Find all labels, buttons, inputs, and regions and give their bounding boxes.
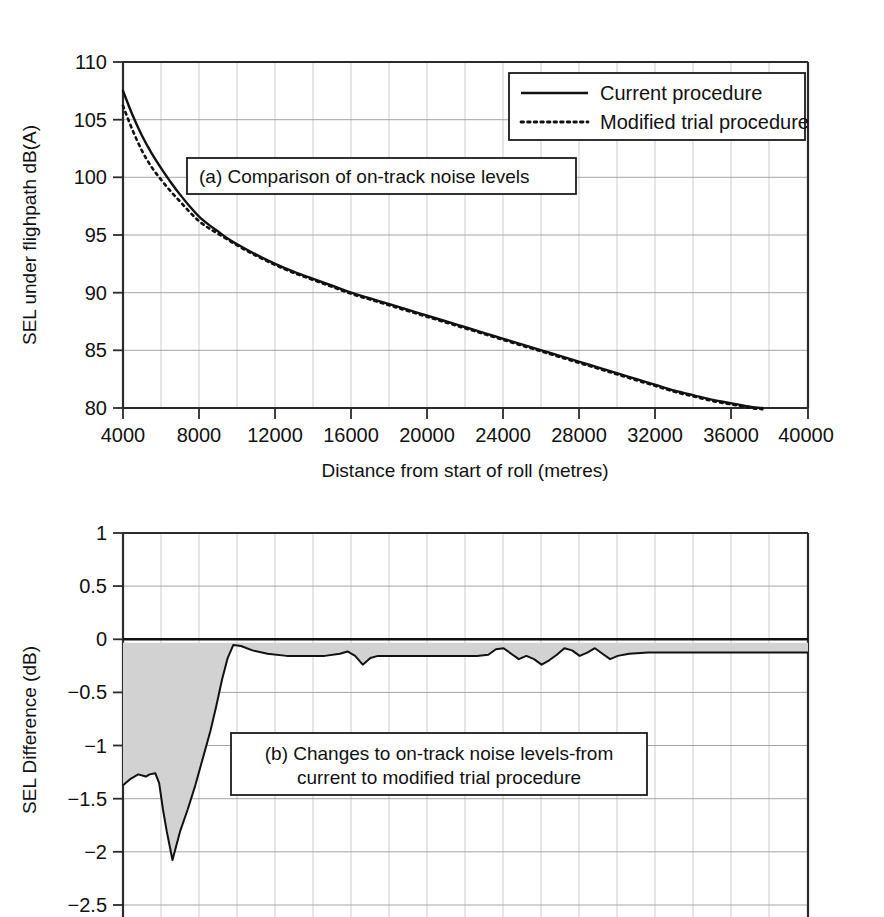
chart-svg: 110 105 100 95 90 85 80 4000 800 bbox=[0, 0, 884, 917]
panel-b-minor-gridlines bbox=[161, 533, 769, 917]
panel-a-xtick-8000: 8000 bbox=[177, 424, 222, 446]
panel-b-ytick-neg0p5: −0.5 bbox=[68, 681, 107, 703]
panel-a-horizontal-gridlines bbox=[123, 120, 808, 351]
panel-b-y-ticks bbox=[113, 533, 123, 905]
panel-a-legend: Current procedure Modified trial procedu… bbox=[509, 73, 809, 140]
panel-b-ytick-0: 0 bbox=[96, 628, 107, 650]
panel-b-ytick-1: 1 bbox=[96, 522, 107, 544]
panel-a-ytick-95: 95 bbox=[85, 224, 107, 246]
legend-label-current: Current procedure bbox=[600, 82, 762, 104]
panel-a-xtick-36000: 36000 bbox=[703, 424, 759, 446]
panel-a-ytick-85: 85 bbox=[85, 339, 107, 361]
panel-a-x-axis-title: Distance from start of roll (metres) bbox=[321, 460, 608, 481]
panel-a-ytick-110: 110 bbox=[75, 51, 107, 73]
panel-a-group: 110 105 100 95 90 85 80 4000 800 bbox=[19, 51, 834, 481]
panel-b-ytick-neg2p5: −2.5 bbox=[68, 894, 107, 916]
panel-a-xtick-32000: 32000 bbox=[627, 424, 683, 446]
panel-a-caption-text: (a) Comparison of on-track noise levels bbox=[199, 166, 530, 187]
panel-a-y-ticks bbox=[113, 62, 123, 408]
panel-b-ytick-0p5: 0.5 bbox=[79, 575, 107, 597]
panel-a-caption-box: (a) Comparison of on-track noise levels bbox=[187, 158, 576, 194]
panel-b-group: 1 0.5 0 −0.5 −1 −1.5 −2 −2.5 SEL Differe… bbox=[19, 522, 808, 917]
panel-a-ytick-100: 100 bbox=[74, 166, 107, 188]
panel-a-y-axis-title: SEL under flighpath dB(A) bbox=[19, 125, 40, 345]
panel-a-ytick-80: 80 bbox=[85, 397, 107, 419]
panel-b-caption-line1: (b) Changes to on-track noise levels-fro… bbox=[265, 743, 613, 764]
panel-a-xtick-28000: 28000 bbox=[551, 424, 607, 446]
panel-a-ytick-105: 105 bbox=[74, 109, 107, 131]
panel-b-ytick-neg1p5: −1.5 bbox=[68, 788, 107, 810]
panel-b-ytick-neg1: −1 bbox=[84, 735, 107, 757]
panel-b-caption-line2: current to modified trial procedure bbox=[297, 767, 581, 788]
panel-b-caption-box: (b) Changes to on-track noise levels-fro… bbox=[231, 733, 647, 795]
panel-b-ytick-neg2: −2 bbox=[84, 841, 107, 863]
panel-a-series-modified bbox=[123, 106, 762, 409]
panel-a-x-ticks bbox=[123, 408, 808, 419]
panel-a-xtick-4000: 4000 bbox=[101, 424, 146, 446]
panel-a-ytick-90: 90 bbox=[85, 282, 107, 304]
panel-a-xtick-12000: 12000 bbox=[247, 424, 303, 446]
panel-a-xtick-40000: 40000 bbox=[778, 424, 834, 446]
panel-b-y-axis-title: SEL Difference (dB) bbox=[19, 646, 40, 814]
legend-label-modified: Modified trial procedure bbox=[600, 111, 809, 133]
panel-a-xtick-24000: 24000 bbox=[475, 424, 531, 446]
panel-a-xtick-16000: 16000 bbox=[323, 424, 379, 446]
figure-container: 110 105 100 95 90 85 80 4000 800 bbox=[0, 0, 884, 917]
panel-a-xtick-20000: 20000 bbox=[399, 424, 455, 446]
